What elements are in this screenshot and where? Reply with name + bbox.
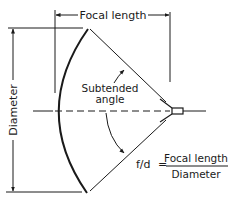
- ratio-numerator: Focal length: [164, 152, 228, 164]
- angle-lower-arrow-icon: [106, 113, 124, 153]
- ratio-lhs: f/d: [136, 158, 151, 171]
- fd-ratio-formula: f/d = Focal length Diameter: [136, 152, 228, 180]
- ratio-denominator: Diameter: [171, 168, 221, 180]
- focal-length-label: Focal length: [79, 9, 146, 22]
- dish-diagram: Focal length Diameter Subtended angle f/…: [0, 0, 236, 209]
- feed-horn-icon: [160, 99, 183, 122]
- lower-edge-ray: [90, 120, 166, 191]
- diameter-label: Diameter: [7, 84, 20, 136]
- subtended-label-line2: angle: [95, 93, 124, 105]
